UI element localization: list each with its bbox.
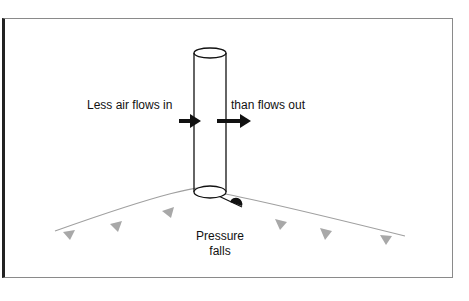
inflow-arrow-icon	[179, 114, 201, 128]
pressure-label: Pressure falls	[190, 229, 250, 259]
pressure-label-line1: Pressure	[190, 229, 250, 244]
outflow-label: than flows out	[231, 98, 305, 112]
pressure-label-line2: falls	[190, 244, 250, 259]
inflow-label: Less air flows in	[87, 98, 172, 112]
outflow-arrow-icon	[217, 114, 251, 128]
